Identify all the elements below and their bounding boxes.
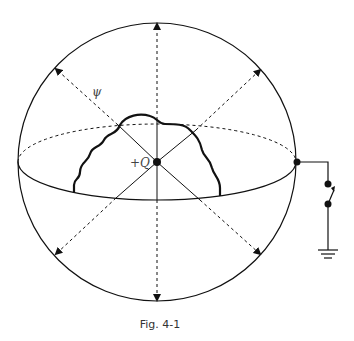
ground-icon bbox=[318, 250, 338, 258]
charge-label: +Q bbox=[130, 156, 150, 170]
switch-contact-top bbox=[325, 181, 332, 188]
ground-circuit bbox=[294, 159, 339, 259]
flux-label: ψ bbox=[92, 85, 102, 99]
charge-dot bbox=[153, 158, 161, 166]
figure-caption: Fig. 4-1 bbox=[0, 318, 320, 331]
gauss-sphere-diagram: +Q ψ bbox=[0, 0, 354, 341]
